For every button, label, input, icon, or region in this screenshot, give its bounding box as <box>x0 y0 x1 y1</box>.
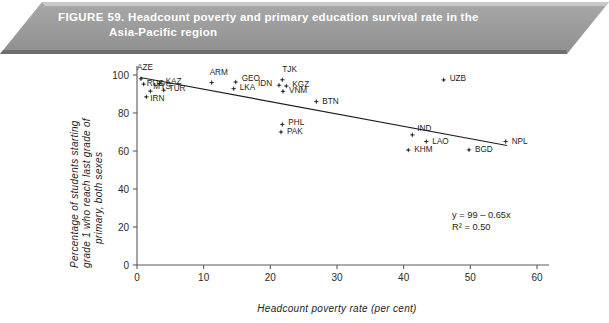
x-tick-label: 0 <box>134 272 140 283</box>
figure-banner: FIGURE 59. Headcount poverty and primary… <box>0 2 609 54</box>
data-point-label: TJK <box>282 65 297 74</box>
data-point-label: NPL <box>512 137 528 146</box>
marker-center <box>235 81 237 83</box>
data-point-label: MYS <box>153 82 171 91</box>
data-point-label: TUR <box>169 84 186 93</box>
marker-center <box>282 90 284 92</box>
data-point: VNM <box>281 86 308 95</box>
marker-center <box>281 124 283 126</box>
regression-annotation: y = 99 – 0.65x R² = 0.50 <box>452 210 511 232</box>
y-axis-title: Percentage of students starting grade 1 … <box>69 117 104 268</box>
x-tick-label: 50 <box>465 272 477 283</box>
data-point-label: AZE <box>137 63 153 72</box>
x-tick-group: 0102030405060 <box>134 265 543 283</box>
x-tick-label: 40 <box>398 272 410 283</box>
data-point-label: IRN <box>150 94 164 103</box>
axes-group <box>137 66 549 265</box>
x-tick-label: 30 <box>331 272 343 283</box>
y-axis-title-line-2: grade 1 who reach last grade of <box>81 117 92 268</box>
data-point: IND <box>410 124 431 137</box>
data-point-label: KHM <box>414 145 432 154</box>
r-squared-value: R² = 0.50 <box>452 222 491 232</box>
marker-center <box>285 85 287 87</box>
figure-title-line-1: Headcount poverty and primary education … <box>128 11 479 23</box>
marker-center <box>468 149 470 151</box>
data-point-label: ARM <box>210 68 228 77</box>
y-tick-label: 60 <box>118 146 130 157</box>
data-point-label: IDN <box>258 79 272 88</box>
x-axis-title: Headcount poverty rate (per cent) <box>257 303 416 314</box>
marker-center <box>149 90 151 92</box>
data-point: IDN <box>258 79 281 88</box>
data-point: IRN <box>144 94 164 103</box>
x-tick-label: 10 <box>198 272 210 283</box>
marker-center <box>425 141 427 143</box>
banner-title: FIGURE 59. Headcount poverty and primary… <box>58 10 528 40</box>
data-point: BGD <box>467 145 493 154</box>
regression-line-group <box>140 78 507 146</box>
marker-center <box>278 84 280 86</box>
y-tick-group: 020406080100 <box>112 70 137 271</box>
marker-center <box>407 149 409 151</box>
data-point-label: PAK <box>287 127 303 136</box>
marker-center <box>315 101 317 103</box>
y-axis-title-line-3: primary, both sexes <box>93 152 104 245</box>
marker-center <box>443 79 445 81</box>
figure-number: FIGURE 59. <box>58 11 125 23</box>
figure-title-line-2: Asia-Pacific region <box>58 25 528 40</box>
x-tick-label: 20 <box>265 272 277 283</box>
y-tick-label: 80 <box>118 108 130 119</box>
marker-center <box>143 83 145 85</box>
data-point-label: IND <box>417 124 431 133</box>
marker-center <box>280 131 282 133</box>
marker-center <box>505 141 507 143</box>
data-point-label: BTN <box>322 97 338 106</box>
y-axis-title-line-1: Percentage of students starting <box>69 120 80 268</box>
marker-center <box>281 79 283 81</box>
marker-center <box>145 96 147 98</box>
scatter-plot: 0102030405060 020406080100 AZERUSKAZTURM… <box>0 54 609 323</box>
data-point: ARM <box>209 68 228 85</box>
data-point: KHM <box>406 145 433 154</box>
x-tick-label: 60 <box>531 272 543 283</box>
data-point-label: UZB <box>450 74 467 83</box>
data-point-label: VNM <box>289 86 307 95</box>
marker-center <box>233 88 235 90</box>
y-tick-label: 40 <box>118 184 130 195</box>
marker-center <box>411 134 413 136</box>
data-point-label: LAO <box>432 137 448 146</box>
data-point-label: BGD <box>475 145 493 154</box>
y-tick-label: 100 <box>112 70 129 81</box>
regression-equation: y = 99 – 0.65x <box>452 210 511 220</box>
data-point: NPL <box>503 137 528 146</box>
data-point: PAK <box>279 127 304 136</box>
data-point: LKA <box>231 83 255 92</box>
data-point-label: LKA <box>240 83 256 92</box>
regression-line <box>140 78 507 146</box>
marker-center <box>211 82 213 84</box>
y-tick-label: 20 <box>118 222 130 233</box>
data-point: BTN <box>314 97 339 106</box>
data-points-group: AZERUSKAZTURMYSIRNARMGEOLKATJKIDNKGZVNMB… <box>137 63 528 154</box>
y-tick-label: 0 <box>123 260 129 271</box>
data-point: UZB <box>441 74 466 83</box>
marker-center <box>140 78 142 80</box>
chart-svg: 0102030405060 020406080100 AZERUSKAZTURM… <box>0 54 609 323</box>
